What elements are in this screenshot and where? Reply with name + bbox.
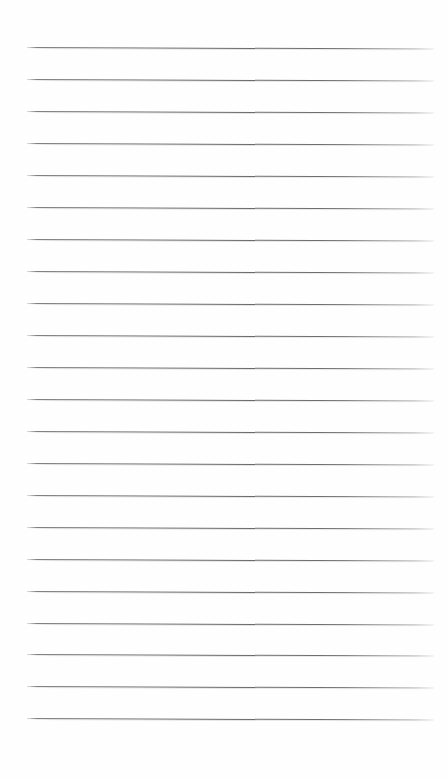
lined-paper-page: [0, 0, 447, 781]
writing-area[interactable]: [27, 20, 434, 730]
